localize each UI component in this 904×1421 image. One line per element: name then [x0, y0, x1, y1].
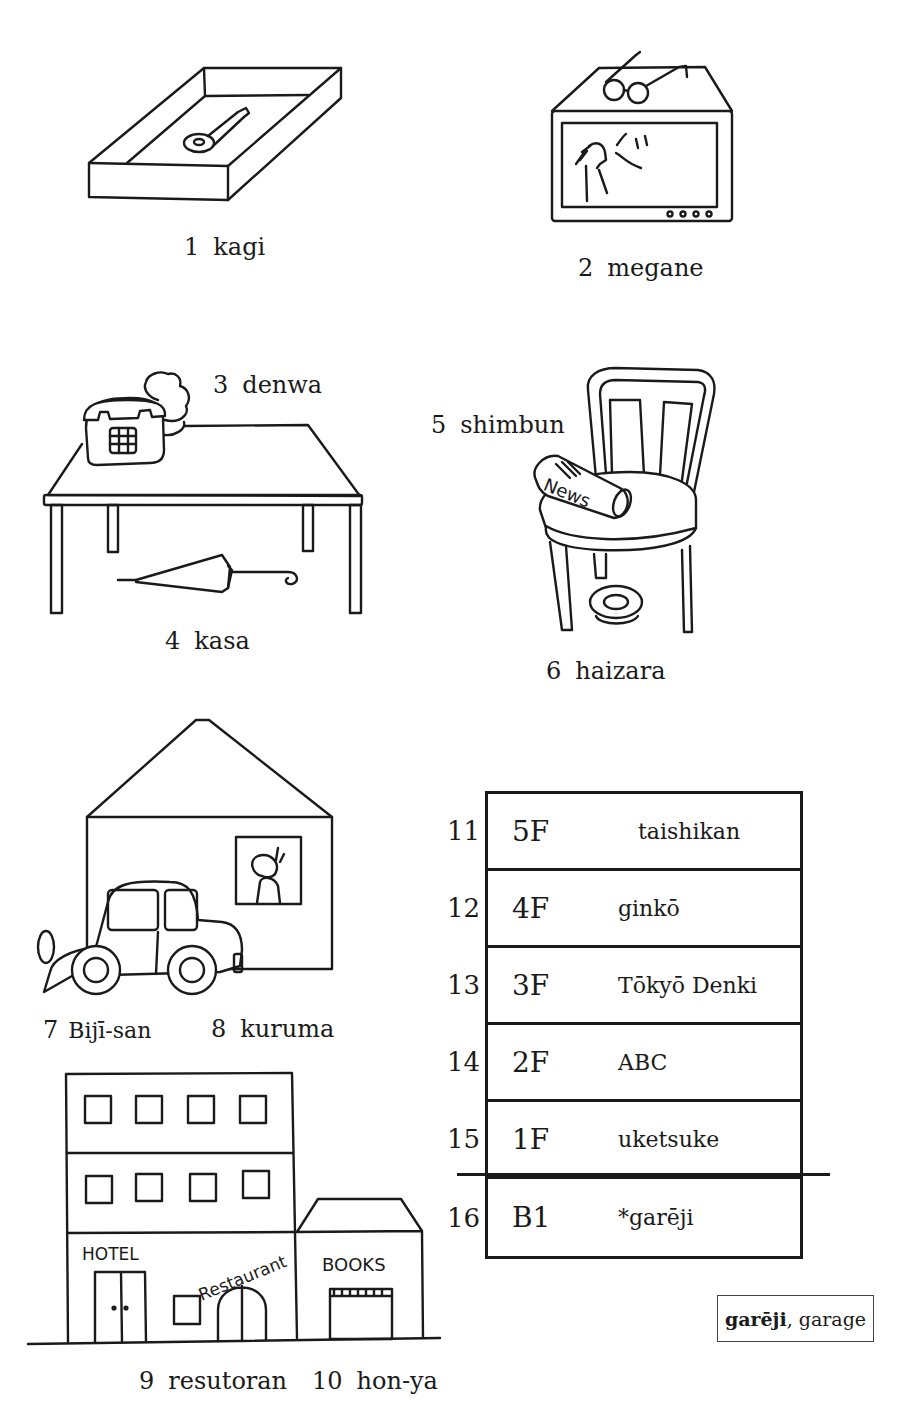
tenant-name: ginkō	[618, 896, 680, 921]
floor-directory: 11 5F taishikan 12 4F ginkō 13 3F Tōkyō …	[485, 791, 803, 1259]
floor-label: 2F	[488, 1046, 608, 1079]
row-number: 11	[440, 816, 480, 846]
floor-label: 5F	[488, 815, 608, 848]
row-number: 12	[440, 893, 480, 923]
gloss-separator: ,	[787, 1308, 799, 1330]
gloss-meaning: garage	[799, 1308, 866, 1330]
chair-with-newspaper-and-ashtray-illustration: News	[420, 350, 720, 670]
directory-row: 12 4F ginkō	[488, 871, 800, 948]
singer-figure-icon	[576, 134, 647, 201]
caption-biji-san: 7Bijī-san	[43, 1016, 151, 1044]
directory-row: 14 2F ABC	[488, 1025, 800, 1102]
directory-row: 16 B1 *garēji	[488, 1179, 800, 1256]
hotel-windows	[85, 1096, 269, 1203]
floor-label: B1	[488, 1201, 608, 1234]
tenant-name: *garēji	[618, 1205, 694, 1230]
tenant-name: taishikan	[638, 819, 740, 844]
house-with-car-illustration	[0, 710, 400, 1010]
directory-row: 13 3F Tōkyō Denki	[488, 948, 800, 1025]
glasses-icon	[604, 52, 687, 103]
umbrella-icon	[118, 555, 297, 592]
directory-row: 15 1F uketsuke	[488, 1102, 800, 1179]
caption-kasa: 4kasa	[165, 627, 250, 655]
ashtray-icon	[590, 586, 642, 624]
car-icon	[38, 882, 242, 994]
directory-row: 11 5F taishikan	[488, 794, 800, 871]
tenant-name: uketsuke	[618, 1127, 719, 1152]
tv-with-glasses-illustration	[0, 0, 904, 300]
row-number: 16	[440, 1203, 480, 1233]
floor-label: 3F	[488, 969, 608, 1002]
floor-label: 1F	[488, 1123, 608, 1156]
ground-level-divider	[457, 1173, 830, 1176]
gloss-term: garēji	[725, 1308, 787, 1330]
floor-label: 4F	[488, 892, 608, 925]
caption-shimbun: 5shimbun	[431, 411, 565, 439]
hotel-restaurant-and-bookstore-illustration: HOTEL Restaurant BOOKS	[0, 1060, 460, 1360]
caption-hon-ya: 10hon-ya	[312, 1367, 438, 1395]
caption-megane: 2megane	[578, 254, 704, 282]
bookstore: BOOKS	[297, 1199, 423, 1339]
svg-text:BOOKS: BOOKS	[322, 1254, 386, 1275]
row-number: 13	[440, 970, 480, 1000]
row-number: 14	[440, 1047, 480, 1077]
caption-denwa: 3denwa	[213, 371, 322, 399]
person-in-window-icon	[252, 848, 284, 903]
row-number: 15	[440, 1124, 480, 1154]
svg-text:HOTEL: HOTEL	[82, 1244, 139, 1264]
tenant-name: ABC	[618, 1050, 667, 1075]
caption-resutoran: 9resutoran	[139, 1367, 287, 1395]
caption-kuruma: 8kuruma	[211, 1015, 334, 1043]
caption-haizara: 6haizara	[546, 657, 665, 685]
telephone-icon	[84, 372, 189, 465]
glossary-box: garēji, garage	[717, 1295, 874, 1342]
tenant-name: Tōkyō Denki	[618, 973, 757, 998]
